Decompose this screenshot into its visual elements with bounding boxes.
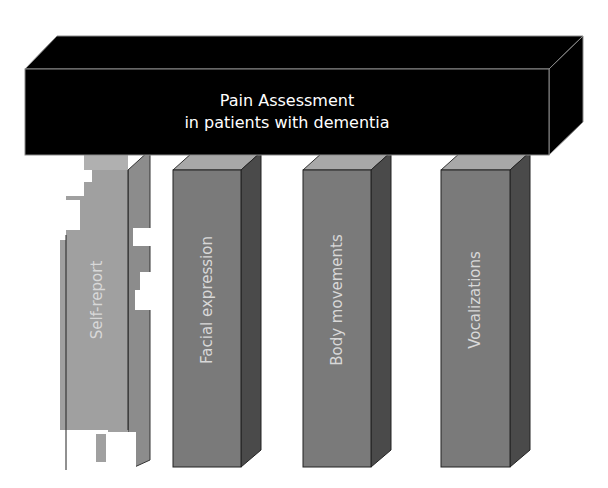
title-line-2: in patients with dementia <box>184 112 389 134</box>
pillar-facial-expression <box>173 152 261 467</box>
label-facial-expression: Facial expression <box>198 236 216 364</box>
label-vocalizations: Vocalizations <box>466 251 484 349</box>
label-self-report: Self-report <box>88 261 106 340</box>
diagram-title: Pain Assessment in patients with dementi… <box>25 69 549 155</box>
pillar-body-movements <box>303 152 391 467</box>
title-line-1: Pain Assessment <box>220 90 354 112</box>
label-body-movements: Body movements <box>328 234 346 366</box>
pillar-vocalizations <box>441 152 530 467</box>
